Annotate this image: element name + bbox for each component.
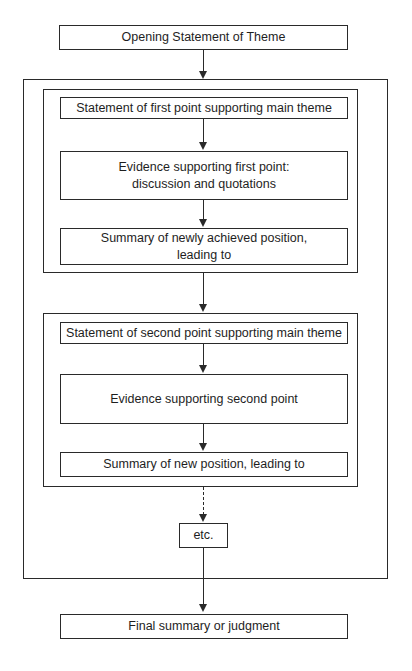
point1-statement-node: Statement of first point supporting main… — [60, 97, 348, 119]
point1-summary-node: Summary of newly achieved position, lead… — [60, 228, 348, 265]
point2-evidence-node: Evidence supporting second point — [60, 374, 348, 424]
etc-label: etc. — [193, 527, 213, 544]
arrowhead-icon — [199, 443, 207, 451]
connector-p2-statement-to-evidence — [203, 344, 204, 366]
connector-p1-to-p2 — [203, 273, 204, 305]
arrowhead-icon — [199, 142, 207, 150]
point1-summary-label-line2: leading to — [177, 247, 231, 264]
point1-summary-label-line1: Summary of newly achieved position, — [101, 230, 307, 247]
point2-statement-label: Statement of second point supporting mai… — [66, 325, 342, 342]
point2-statement-node: Statement of second point supporting mai… — [60, 322, 348, 344]
arrowhead-icon — [199, 365, 207, 373]
connector-p1-statement-to-evidence — [203, 119, 204, 143]
point1-evidence-label-line2: discussion and quotations — [132, 176, 276, 193]
connector-p2-to-etc-dashed — [203, 487, 204, 515]
connector-etc-to-final — [203, 548, 204, 605]
point1-evidence-label-line1: Evidence supporting first point: — [119, 159, 290, 176]
opening-statement-label: Opening Statement of Theme — [122, 29, 286, 46]
opening-statement-node: Opening Statement of Theme — [59, 25, 348, 50]
arrowhead-icon — [199, 219, 207, 227]
final-summary-node: Final summary or judgment — [60, 614, 348, 639]
etc-node: etc. — [179, 523, 228, 548]
connector-opening-to-body — [203, 50, 204, 72]
arrowhead-icon — [199, 604, 207, 612]
connector-p2-evidence-to-summary — [203, 424, 204, 444]
final-summary-label: Final summary or judgment — [128, 618, 279, 635]
point2-evidence-label: Evidence supporting second point — [110, 391, 298, 408]
arrowhead-icon — [199, 304, 207, 312]
point2-summary-node: Summary of new position, leading to — [60, 452, 348, 477]
connector-p1-evidence-to-summary — [203, 200, 204, 220]
point2-summary-label: Summary of new position, leading to — [103, 456, 305, 473]
arrowhead-icon — [199, 71, 207, 79]
point1-evidence-node: Evidence supporting first point: discuss… — [60, 151, 348, 200]
arrowhead-icon — [199, 514, 207, 522]
point1-statement-label: Statement of first point supporting main… — [76, 100, 332, 117]
